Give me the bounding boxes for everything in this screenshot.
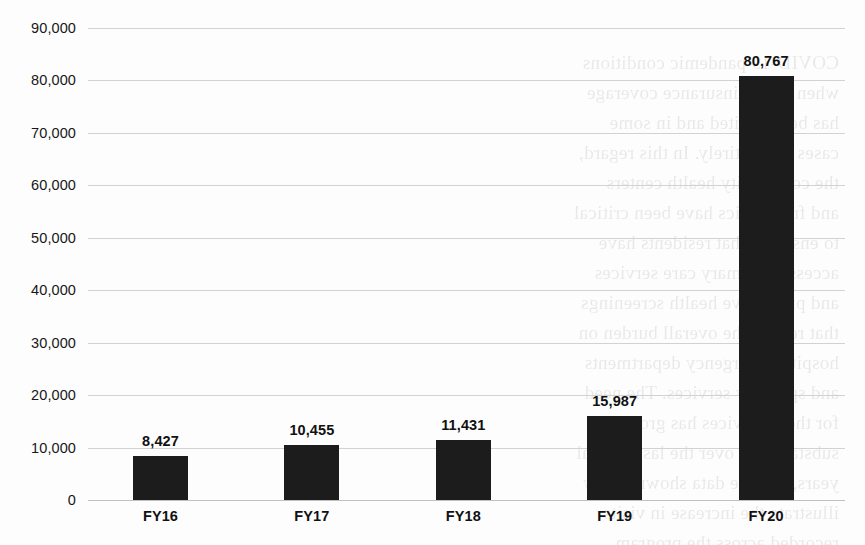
bar-fy20[interactable] bbox=[739, 76, 794, 500]
gridline bbox=[88, 343, 845, 344]
y-axis-tick-label: 80,000 bbox=[0, 72, 76, 88]
y-axis-tick-label: 60,000 bbox=[0, 177, 76, 193]
gridline bbox=[88, 395, 845, 396]
axis-baseline bbox=[88, 500, 845, 501]
y-axis-tick-label: 30,000 bbox=[0, 335, 76, 351]
x-axis-tick-label: FY17 bbox=[252, 508, 372, 524]
bar-fy17[interactable] bbox=[284, 445, 339, 500]
y-axis-tick-label: 20,000 bbox=[0, 387, 76, 403]
y-axis-tick-label: 40,000 bbox=[0, 282, 76, 298]
bar-fy16[interactable] bbox=[133, 456, 188, 500]
bar-chart: COVID-19 pandemic conditions when health… bbox=[0, 0, 865, 545]
gridline bbox=[88, 185, 845, 186]
x-axis-tick-label: FY16 bbox=[101, 508, 221, 524]
y-axis-tick-label: 90,000 bbox=[0, 20, 76, 36]
bar-value-label: 80,767 bbox=[706, 53, 826, 69]
bar-fy19[interactable] bbox=[587, 416, 642, 500]
bar-fy18[interactable] bbox=[436, 440, 491, 500]
bar-value-label: 11,431 bbox=[403, 417, 523, 433]
gridline bbox=[88, 28, 845, 29]
bar-value-label: 8,427 bbox=[101, 433, 221, 449]
y-axis-tick-label: 0 bbox=[0, 492, 76, 508]
gridline bbox=[88, 290, 845, 291]
y-axis-tick-label: 50,000 bbox=[0, 230, 76, 246]
bar-value-label: 10,455 bbox=[252, 422, 372, 438]
x-axis-tick-label: FY18 bbox=[403, 508, 523, 524]
y-axis-tick-label: 70,000 bbox=[0, 125, 76, 141]
gridline bbox=[88, 238, 845, 239]
gridline bbox=[88, 133, 845, 134]
y-axis-tick-label: 10,000 bbox=[0, 440, 76, 456]
gridline bbox=[88, 80, 845, 81]
bar-value-label: 15,987 bbox=[555, 393, 675, 409]
x-axis-tick-label: FY19 bbox=[555, 508, 675, 524]
x-axis-tick-label: FY20 bbox=[706, 508, 826, 524]
